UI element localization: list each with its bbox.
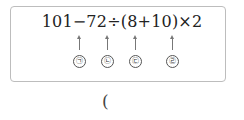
up-arrow-icon: [135, 38, 136, 50]
circled-label: ㉠: [73, 55, 86, 68]
circled-label: ㉢: [129, 55, 142, 68]
up-arrow-icon: [107, 38, 108, 50]
answer-blank-open-paren: (: [102, 91, 109, 111]
marker-1: ㉠: [72, 38, 86, 68]
up-arrow-icon: [79, 38, 80, 50]
marker-3: ㉢: [128, 38, 142, 68]
circled-label: ㉣: [166, 55, 179, 68]
circled-label: ㉡: [101, 55, 114, 68]
math-expression: 101−72÷(8+10)×2: [0, 12, 244, 31]
up-arrow-icon: [172, 38, 173, 50]
marker-4: ㉣: [165, 38, 179, 68]
marker-2: ㉡: [100, 38, 114, 68]
